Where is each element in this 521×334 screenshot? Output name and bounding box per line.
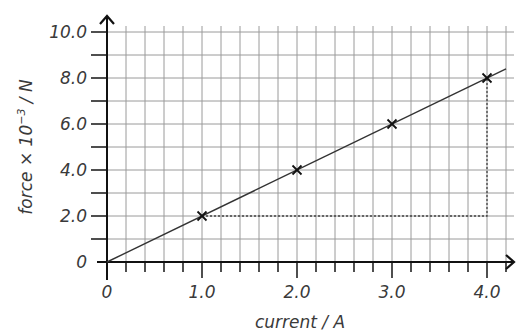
y-axis-title-unit: / N xyxy=(16,79,36,109)
x-tick-label: 3.0 xyxy=(378,282,405,302)
x-tick-labels: 01.02.03.04.0 xyxy=(102,282,501,302)
y-axis-title-main: force × 10 xyxy=(16,125,36,215)
best-fit-line xyxy=(107,69,506,262)
x-tick-label: 1.0 xyxy=(188,282,215,302)
force-current-chart: 01.02.03.04.0 02.04.06.08.010.0 current … xyxy=(0,0,521,334)
y-axis-title: force × 10−3 / N xyxy=(15,79,36,215)
y-tick-label: 10.0 xyxy=(49,22,87,42)
axes xyxy=(97,16,514,280)
y-tick-label: 2.0 xyxy=(60,206,87,226)
axis-ticks xyxy=(91,32,506,278)
fit-line xyxy=(107,69,506,262)
x-tick-label: 0 xyxy=(102,282,113,302)
y-tick-label: 4.0 xyxy=(60,160,87,180)
y-tick-label: 0 xyxy=(76,252,87,272)
y-tick-labels: 02.04.06.08.010.0 xyxy=(49,22,87,272)
x-tick-label: 2.0 xyxy=(283,282,310,302)
y-tick-label: 8.0 xyxy=(60,68,87,88)
y-tick-label: 6.0 xyxy=(60,114,87,134)
y-axis-title-exponent: −3 xyxy=(15,109,28,125)
grid-lines xyxy=(107,26,514,262)
x-axis-title: current / A xyxy=(255,312,345,332)
x-tick-label: 4.0 xyxy=(473,282,500,302)
